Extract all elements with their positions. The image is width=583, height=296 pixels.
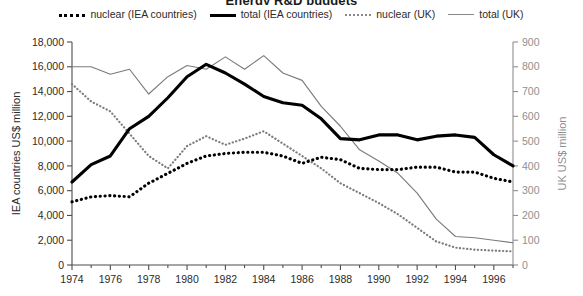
y-tick-label-left: 12,000 (32, 110, 64, 122)
y-tick-label-left: 2,000 (38, 234, 64, 246)
x-tick-label: 1978 (137, 273, 161, 285)
y-tick-label-left: 4,000 (38, 209, 64, 221)
y-tick-label-left: 0 (58, 259, 64, 271)
y-axis-title-left: IEA countries US$ million (10, 92, 22, 216)
axis-labels-layer: 02,0004,0006,0008,00010,00012,00014,0001… (10, 36, 568, 285)
y-tick-label-right: 900 (522, 36, 540, 48)
y-tick-label-right: 0 (522, 259, 528, 271)
x-tick-label: 1992 (405, 273, 429, 285)
x-tick-label: 1994 (444, 273, 468, 285)
x-tick-label: 1974 (60, 273, 84, 285)
x-tick-label: 1980 (175, 273, 199, 285)
y-tick-label-right: 100 (522, 234, 540, 246)
y-tick-label-left: 8,000 (38, 160, 64, 172)
y-tick-label-left: 10,000 (32, 135, 64, 147)
y-tick-label-right: 300 (522, 184, 540, 196)
series-line-nuclear-uk (72, 84, 513, 251)
y-tick-label-right: 600 (522, 110, 540, 122)
y-tick-label-left: 16,000 (32, 60, 64, 72)
y-tick-label-right: 400 (522, 160, 540, 172)
y-axis-title-right: UK US$ million (556, 117, 568, 191)
x-tick-label: 1984 (252, 273, 276, 285)
x-tick-label: 1990 (367, 273, 391, 285)
x-tick-label: 1988 (329, 273, 353, 285)
y-tick-label-left: 6,000 (38, 184, 64, 196)
x-tick-label: 1982 (214, 273, 238, 285)
y-tick-label-right: 800 (522, 60, 540, 72)
x-tick-label: 1976 (99, 273, 123, 285)
x-tick-label: 1996 (482, 273, 506, 285)
y-tick-label-right: 200 (522, 209, 540, 221)
series-line-total-iea (72, 64, 513, 182)
series-line-nuclear-iea (72, 152, 513, 202)
plot-svg: 02,0004,0006,0008,00010,00012,00014,0001… (0, 0, 583, 296)
y-tick-label-right: 700 (522, 85, 540, 97)
series-line-total-uk (72, 56, 513, 243)
y-tick-label-left: 14,000 (32, 85, 64, 97)
x-tick-label: 1986 (290, 273, 314, 285)
y-tick-label-right: 500 (522, 135, 540, 147)
chart-container: Energy R&D budgets nuclear (IEA countrie… (0, 0, 583, 296)
plot-area: 02,0004,0006,0008,00010,00012,00014,0001… (0, 0, 583, 296)
axis-left-bottom (72, 42, 513, 265)
series-layer (72, 56, 513, 252)
y-tick-label-left: 18,000 (32, 36, 64, 48)
